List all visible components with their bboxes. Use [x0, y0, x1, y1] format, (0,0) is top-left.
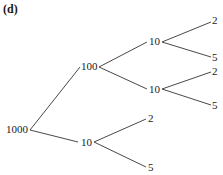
edge-10c-2 — [94, 119, 146, 142]
tree-edges — [0, 0, 223, 175]
node-l3-c: 2 — [212, 66, 218, 77]
node-l1-upper: 100 — [81, 61, 98, 72]
edge-1000-100 — [30, 67, 80, 130]
edge-10a-2 — [162, 22, 211, 42]
node-l3-d: 5 — [212, 100, 218, 111]
node-l2-a: 10 — [149, 36, 160, 47]
node-root: 1000 — [6, 124, 28, 135]
node-l2-d: 5 — [148, 162, 154, 173]
edge-10b-5 — [162, 89, 211, 105]
node-l1-lower: 10 — [81, 137, 92, 148]
node-l3-b: 5 — [212, 52, 218, 63]
edge-10c-5 — [94, 142, 146, 167]
node-l2-c: 2 — [148, 113, 154, 124]
edge-1000-10 — [30, 130, 78, 142]
edge-10a-5 — [162, 42, 211, 57]
edge-100-10a — [99, 42, 147, 67]
node-l3-a: 2 — [212, 15, 218, 26]
edge-10b-2 — [162, 72, 211, 89]
node-l2-b: 10 — [149, 84, 160, 95]
edge-100-10b — [99, 67, 147, 89]
